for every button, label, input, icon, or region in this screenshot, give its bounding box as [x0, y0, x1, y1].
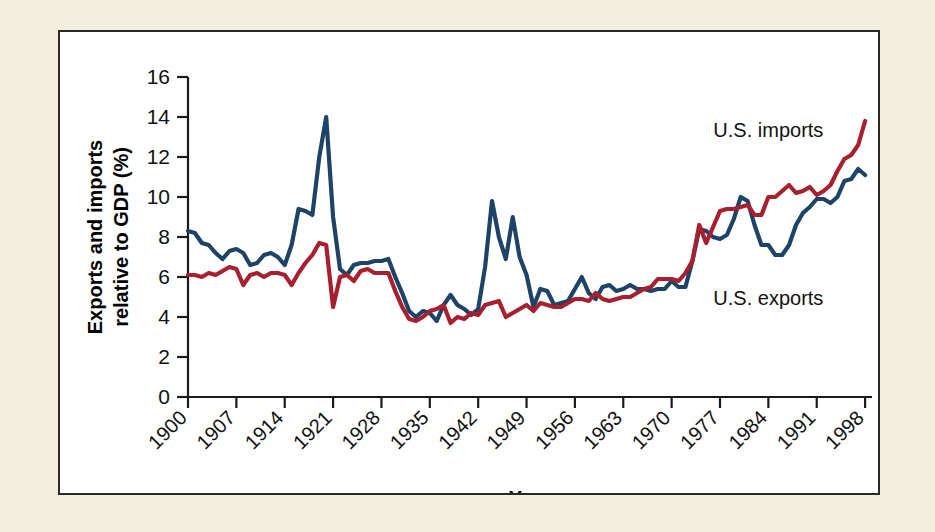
x-tick-label: 1949 [482, 406, 529, 453]
y-axis-title-line1: Exports and imports [84, 140, 106, 334]
y-tick-label: 16 [147, 65, 170, 88]
y-tick-label: 8 [158, 225, 170, 248]
x-tick-label: 1900 [144, 406, 191, 453]
y-tick-label: 12 [147, 145, 170, 168]
y-axis-title-line2: relative to GDP (%) [110, 147, 132, 327]
x-tick-label: 1914 [241, 406, 288, 453]
series-label-u-s-imports: U.S. imports [713, 119, 823, 141]
x-tick-label: 1991 [773, 406, 820, 453]
x-tick-label: 1935 [386, 406, 433, 453]
y-tick-label: 10 [147, 185, 170, 208]
figure-panel: 0246810121416190019071914192119281935194… [58, 30, 880, 495]
line-chart: 0246810121416190019071914192119281935194… [60, 32, 878, 493]
y-tick-label: 2 [158, 345, 170, 368]
x-tick-label: 1984 [724, 406, 771, 453]
x-axis-title: Year [509, 487, 551, 493]
x-tick-label: 1963 [579, 406, 626, 453]
x-tick-label: 1956 [531, 406, 578, 453]
chart-area: 0246810121416190019071914192119281935194… [60, 32, 878, 493]
y-tick-label: 0 [158, 385, 170, 408]
x-tick-label: 1970 [627, 406, 674, 453]
x-tick-label: 1928 [337, 406, 384, 453]
y-tick-label: 4 [158, 305, 170, 328]
x-tick-label: 1942 [434, 406, 481, 453]
x-tick-label: 1921 [289, 406, 336, 453]
x-tick-label: 1998 [821, 406, 868, 453]
x-tick-label: 1907 [192, 406, 239, 453]
x-tick-label: 1977 [676, 406, 723, 453]
y-tick-label: 14 [147, 105, 171, 128]
y-tick-label: 6 [158, 265, 170, 288]
series-label-u-s-exports: U.S. exports [713, 287, 823, 309]
